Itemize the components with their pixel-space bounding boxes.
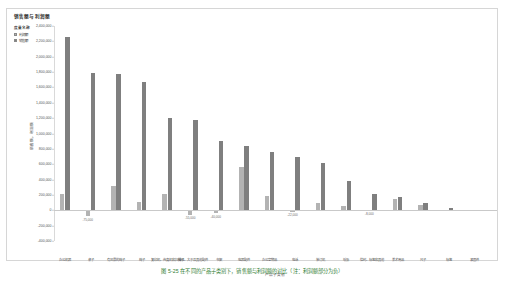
negative-value-label: -22,000 [287,213,298,217]
bar-profit[interactable] [393,199,397,210]
bar-group[interactable] [111,26,137,241]
bar-profit[interactable] [162,194,166,211]
y-axis-tick-label: 600,000 [39,162,52,166]
bar-profit[interactable] [316,203,320,210]
bar-group[interactable] [214,26,240,241]
figure-caption: 图 5-25 在不同的产品子类别下，销售额与利润额的对比（注：利润额部分为负） [0,268,505,276]
bar-sales[interactable] [423,203,427,210]
x-axis-tick-label: 电话 [292,257,298,262]
zero-baseline [54,210,497,211]
x-axis-tick-label: 电器配件 [238,257,250,262]
x-axis-tick-label: 椅子 [139,257,145,262]
bar-sales[interactable] [116,74,120,210]
y-axis-tick-mark [52,118,54,119]
bar-group[interactable] [137,26,163,241]
bar-group[interactable] [265,26,291,241]
legend-item-profit[interactable]: 利润额 [14,32,48,37]
y-axis-tick-mark [52,87,54,88]
bar-sales[interactable] [270,152,274,210]
y-axis-tick-label: 1,000,000 [36,132,52,136]
bar-group[interactable] [341,26,367,241]
x-axis-tick-label: 紧固件 [470,257,479,262]
bar-sales[interactable] [65,37,69,210]
x-axis-tick-label: 桌子 [88,257,94,262]
bar-sales[interactable] [168,118,172,210]
bar-group[interactable] [290,26,316,241]
worksheet-panel: 销售额与利润额 度量名称 利润额销售额 销售额，利润额 产品子类别 2,400,… [6,8,498,261]
y-axis-tick-mark [52,41,54,42]
bar-group[interactable] [418,26,444,241]
y-axis-tick-label: 400,000 [39,178,52,182]
bar-sales[interactable] [219,141,223,210]
bar-group[interactable] [393,26,419,241]
y-axis-tick-label: 1,200,000 [36,116,52,120]
y-axis-tick-label: 2,200,000 [36,39,52,43]
bar-group[interactable] [367,26,393,241]
y-axis-tick-mark [52,149,54,150]
bar-profit[interactable] [86,210,90,216]
y-axis-tick-label: 2,000,000 [36,55,52,59]
y-axis-tick-mark [52,56,54,57]
y-axis-tick-mark [52,26,54,27]
bar-sales[interactable] [142,82,146,210]
x-axis-tick-label: 椅子、大于及其他配件 [178,257,208,262]
page-title: 销售额与利润额 [14,13,50,19]
bar-sales[interactable] [193,120,197,211]
x-axis-tick-label: 信封、标签和其他 [360,257,384,262]
x-axis-tick-label: 标签 [446,257,452,262]
y-axis-tick-mark [52,164,54,165]
y-axis-tick-mark [52,103,54,104]
bar-group[interactable] [162,26,188,241]
bar-group[interactable] [239,26,265,241]
y-axis-tick-label: 200,000 [39,193,52,197]
y-axis-title: 销售额，利润额 [29,122,34,150]
y-axis-tick-label: 1,600,000 [36,85,52,89]
x-axis-tick-label: 纸张 [343,257,349,262]
y-axis-tick-label: -200,000 [38,224,52,228]
negative-value-label: -8,000 [365,212,374,216]
y-axis-line [54,26,55,241]
bar-profit[interactable] [265,196,269,210]
y-axis-tick-mark [52,195,54,196]
x-axis-tick-label: 有风景的椅子 [107,257,125,262]
legend-item-label: 利润额 [19,32,28,37]
plot-area: 2,400,0002,200,0002,000,0001,800,0001,60… [54,26,497,241]
bar-profit[interactable] [111,186,115,211]
bar-sales[interactable] [295,157,299,211]
bar-group[interactable] [316,26,342,241]
bar-profit[interactable] [60,194,64,211]
bar-sales[interactable] [91,73,95,210]
y-axis-tick-label: -400,000 [38,239,52,243]
x-axis-tick-label: 书架 [216,257,222,262]
bar-group[interactable] [188,26,214,241]
legend-swatch-icon [14,33,17,36]
bar-profit[interactable] [239,167,243,210]
bar-group[interactable] [469,26,495,241]
x-axis-tick-label: 办公室物品 [262,257,277,262]
y-axis-tick-label: 800,000 [39,147,52,151]
y-axis-tick-label: 1,800,000 [36,70,52,74]
x-axis-tick-label: 办公机器 [59,257,71,262]
x-axis-tick-label: 尺子 [420,257,426,262]
y-axis-tick-mark [52,133,54,134]
legend-item-label: 销售额 [19,38,28,43]
bar-profit[interactable] [137,202,141,210]
y-axis-tick-label: 2,400,000 [36,24,52,28]
negative-value-label: -40,000 [210,215,221,219]
bar-sales[interactable] [347,181,351,210]
y-axis-tick-mark [52,72,54,73]
x-axis-tick-label: 装订机 [316,257,325,262]
bar-sales[interactable] [321,163,325,211]
bar-group[interactable] [60,26,86,241]
bar-profit[interactable] [188,210,192,214]
y-axis-tick-label: 0 [50,208,52,212]
chart-screenshot: 销售额与利润额 度量名称 利润额销售额 销售额，利润额 产品子类别 2,400,… [0,0,505,287]
bar-sales[interactable] [244,146,248,211]
y-axis-tick-mark [52,241,54,242]
bar-group[interactable] [444,26,470,241]
bar-sales[interactable] [398,197,402,210]
bar-group[interactable] [86,26,112,241]
negative-value-label: -75,000 [83,218,94,222]
y-axis-tick-label: 1,400,000 [36,101,52,105]
bar-sales[interactable] [372,194,376,210]
